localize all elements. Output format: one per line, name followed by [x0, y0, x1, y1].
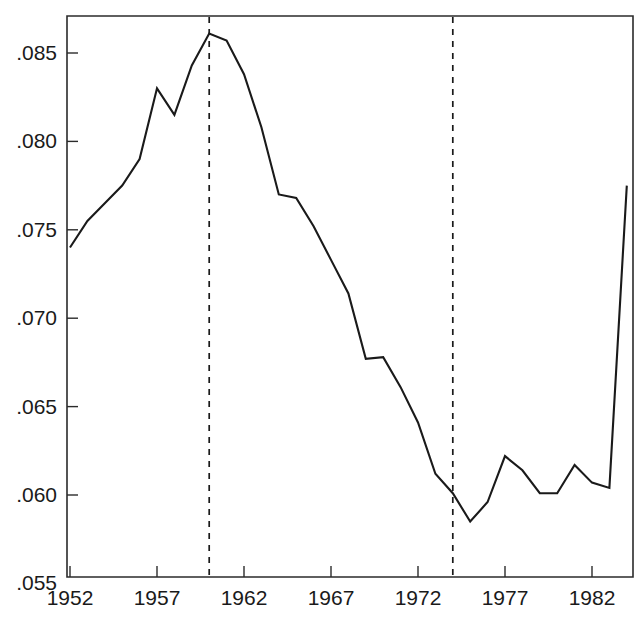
- y-axis-tick-label: .075: [16, 218, 57, 241]
- data-series-group: [70, 34, 627, 522]
- y-axis-tick-label: .080: [16, 129, 57, 152]
- y-axis-tick-group: [67, 53, 78, 495]
- x-axis-tick-label: 1982: [569, 586, 616, 609]
- y-axis-tick-label: .065: [16, 395, 57, 418]
- annotation-line-group: [209, 17, 453, 576]
- x-axis-tick-label: 1972: [395, 586, 442, 609]
- x-axis-tick-label: 1977: [482, 586, 529, 609]
- chart-figure: .055.060.065.070.075.080.085 19521957196…: [0, 0, 642, 620]
- y-axis-tick-label: .060: [16, 483, 57, 506]
- x-axis-tick-label: 1957: [134, 586, 181, 609]
- y-axis-tick-label: .070: [16, 306, 57, 329]
- y-axis-label-group: .055.060.065.070.075.080.085: [16, 41, 57, 594]
- x-axis-tick-label: 1967: [308, 586, 355, 609]
- x-axis-label-group: 1952195719621967197219771982: [47, 586, 616, 609]
- data-series-line: [70, 34, 627, 522]
- line-chart-plot: .055.060.065.070.075.080.085 19521957196…: [0, 0, 642, 620]
- x-axis-tick-label: 1952: [47, 586, 94, 609]
- x-axis-tick-group: [70, 566, 592, 577]
- x-axis-tick-label: 1962: [221, 586, 268, 609]
- y-axis-tick-label: .085: [16, 41, 57, 64]
